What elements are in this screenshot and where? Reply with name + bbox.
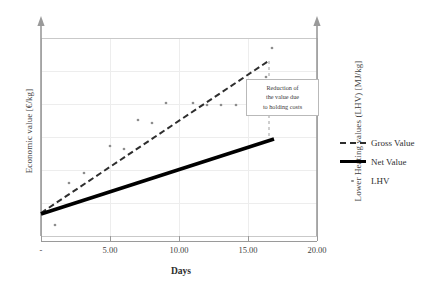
- lhv-point: [137, 119, 140, 122]
- lhv-point: [68, 182, 71, 185]
- lhv-point: [54, 224, 57, 227]
- left-axis-title: Economic value [€/kg]: [24, 46, 34, 216]
- annotation-holding-costs: Reduction of the value due to holding co…: [246, 79, 319, 116]
- chart-legend: Gross Value Net Value LHV: [340, 133, 415, 190]
- dashed-line-icon: [340, 137, 366, 149]
- x-tick-label-1: 5.00: [90, 245, 130, 255]
- solid-line-icon: [340, 156, 366, 168]
- x-axis-title: Days: [40, 266, 322, 276]
- lhv-point: [220, 104, 223, 107]
- x-tick-label-4: 20.00: [297, 245, 337, 255]
- legend-item-gross-value[interactable]: Gross Value: [340, 133, 415, 152]
- dot-marker-icon: [340, 175, 366, 187]
- lhv-point: [165, 102, 168, 105]
- annotation-line-3: to holding costs: [248, 102, 317, 111]
- legend-item-lhv[interactable]: LHV: [340, 171, 415, 190]
- lhv-point: [83, 172, 86, 175]
- lhv-point: [109, 145, 112, 148]
- x-tick-label-2: 10.00: [159, 245, 199, 255]
- lhv-point: [192, 102, 195, 105]
- right-axis-title: Lower Heating values (LHV) [MJ/kg]: [353, 16, 363, 246]
- x-tick-label-3: 15.00: [228, 245, 268, 255]
- legend-item-net-value[interactable]: Net Value: [340, 152, 415, 171]
- lhv-point: [206, 104, 209, 107]
- annotation-line-1: Reduction of: [248, 83, 317, 92]
- x-tick-label-0: -: [21, 245, 61, 255]
- lhv-point: [151, 122, 154, 125]
- lhv-point: [271, 47, 274, 50]
- annotation-line-2: the value due: [248, 92, 317, 101]
- lhv-point: [123, 148, 126, 151]
- chart-figure: Economic value [€/kg] Lower Heating valu…: [0, 0, 448, 289]
- legend-label-gross-value: Gross Value: [371, 138, 415, 148]
- lhv-point: [265, 76, 268, 79]
- x-axis: [41, 236, 317, 241]
- legend-label-net-value: Net Value: [371, 157, 407, 167]
- lhv-point: [235, 104, 238, 107]
- legend-label-lhv: LHV: [371, 176, 390, 186]
